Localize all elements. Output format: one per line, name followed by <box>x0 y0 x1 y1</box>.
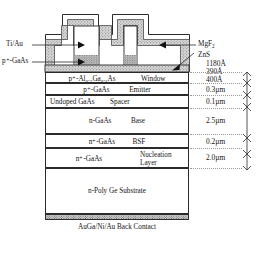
thickness-bsf: 0.2µm <box>206 138 225 145</box>
zns-coating-layer <box>46 20 190 72</box>
label-p-plus-gaas-contact: p⁺-GaAs <box>2 58 28 65</box>
tie-line-spacer <box>190 95 242 97</box>
label-back-contact: AuGa/Ni/Au Back Contact <box>45 224 189 231</box>
layer-bsf-text: n⁺-GaAs BSF <box>46 137 188 146</box>
device-cross-section-figure: Ti/Au p⁺-GaAs MgF2 ZnS 1180Å 390Å p⁺-Al₀… <box>0 0 262 255</box>
thickness-emitter: 0.3µm <box>206 86 225 93</box>
back-contact-band <box>45 214 189 220</box>
dimension-arrow-rail <box>236 66 258 176</box>
p-plus-gaas-cap-layer <box>45 65 189 72</box>
layer-base: n-GaAs Base <box>45 108 189 134</box>
layer-substrate: n-Poly Ge Substrate <box>45 168 189 214</box>
layer-bsf-material: n⁺-GaAs <box>89 138 115 146</box>
layer-nucleation-material-wrap: n⁺-GaAs <box>18 154 160 163</box>
mgf2-subscript: 2 <box>212 43 215 49</box>
layer-nucleation: n⁺-GaAs Nucleation Layer <box>45 148 189 168</box>
layer-bsf: n⁺-GaAs BSF <box>45 134 189 148</box>
layer-substrate-material: n-Poly Ge Substrate <box>88 187 146 195</box>
layer-base-role: Base <box>131 117 145 125</box>
layer-emitter: p⁺-GaAs Emitter <box>45 83 189 95</box>
layer-window-role: Window <box>141 74 165 82</box>
layer-base-text: n-GaAs Base <box>46 117 188 125</box>
layer-substrate-text: n-Poly Ge Substrate <box>46 187 188 195</box>
layer-spacer-material: Undoped GaAs <box>50 98 95 106</box>
layer-base-material: n-GaAs <box>89 117 111 125</box>
tie-line-window <box>190 72 242 74</box>
layer-window-text: p⁺-Al₀.₇Ga₀.₃As Window <box>46 73 188 82</box>
tie-line-nucleation <box>190 148 242 150</box>
thickness-nucleation: 2.0µm <box>206 154 225 161</box>
label-mgf2: MgF2 <box>198 41 215 48</box>
tie-line-base <box>190 108 242 110</box>
tie-line-bsf <box>190 134 242 136</box>
thickness-base: 2.5µm <box>206 117 225 124</box>
layer-emitter-role: Emitter <box>129 86 151 94</box>
layer-window-material: p⁺-Al₀.₇Ga₀.₃As <box>68 74 115 82</box>
layer-spacer-text: Undoped GaAs Spacer <box>46 98 130 106</box>
layer-emitter-material: p⁺-GaAs <box>83 86 109 94</box>
layer-bsf-role: BSF <box>133 138 146 146</box>
tie-line-substrate <box>190 168 242 170</box>
tie-line-emitter <box>190 83 242 85</box>
label-ti-au: Ti/Au <box>6 41 23 48</box>
layer-nucleation-material: n⁺-GaAs <box>76 155 102 163</box>
thickness-spacer: 0.1µm <box>206 98 225 105</box>
layer-nucleation-role: Nucleation Layer <box>140 151 182 167</box>
layer-window: p⁺-Al₀.₇Ga₀.₃As Window <box>45 72 189 83</box>
layer-emitter-text: p⁺-GaAs Emitter <box>46 85 188 94</box>
layer-spacer: Undoped GaAs Spacer <box>45 95 189 108</box>
layer-spacer-role: Spacer <box>110 98 130 106</box>
